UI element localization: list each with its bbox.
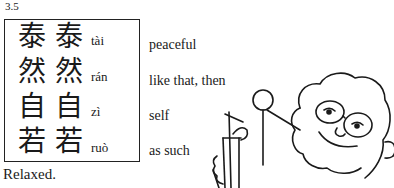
pinyin: ruò	[91, 140, 108, 156]
character-simplified: 然	[55, 57, 83, 87]
pinyin: zì	[91, 104, 100, 120]
cartoon-illustration-icon	[205, 60, 394, 188]
character-traditional: 自	[18, 92, 46, 122]
character-traditional: 若	[18, 127, 46, 157]
character-simplified: 自	[55, 92, 83, 122]
character-simplified: 若	[55, 127, 83, 157]
section-number: 3.5	[5, 0, 19, 12]
gloss: peaceful	[149, 37, 196, 53]
character-table: 泰 泰 tài 然 然 rán 自 自 zì 若 若 ruò	[4, 19, 140, 162]
pinyin: tài	[91, 33, 104, 49]
caption: Relaxed.	[3, 166, 56, 183]
gloss: as such	[149, 143, 190, 159]
character-traditional: 然	[18, 57, 46, 87]
character-simplified: 泰	[55, 22, 83, 52]
character-traditional: 泰	[18, 22, 46, 52]
gloss: self	[149, 108, 169, 124]
pinyin: rán	[91, 69, 108, 85]
